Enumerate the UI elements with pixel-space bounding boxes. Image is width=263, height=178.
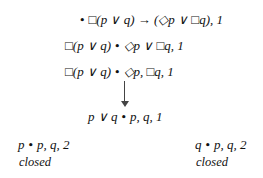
node-left: p [18, 137, 25, 152]
arrowhead-icon [121, 101, 129, 107]
closed-label-right: closed [196, 155, 228, 170]
sequent-bullet: • [114, 66, 121, 79]
node-left: q [195, 137, 202, 152]
node-right: □(p ∨ q) → (◇p ∨ □q), 1 [89, 12, 224, 27]
tableau-node-2: □(p ∨ q)•◇p ∨ □q, 1 [65, 39, 184, 54]
node-right: p, q, 2 [37, 137, 70, 152]
sequent-bullet: • [28, 139, 35, 152]
tableau-node-3: □(p ∨ q)•◇p, □q, 1 [65, 65, 174, 80]
node-right: p, q, 1 [130, 109, 163, 124]
node-right: ◇p ∨ □q, 1 [124, 38, 184, 53]
sequent-bullet: • [79, 14, 86, 27]
tableau-node-5: p•p, q, 2 [18, 138, 70, 153]
node-left: □(p ∨ q) [65, 64, 111, 79]
closed-label-left: closed [19, 155, 51, 170]
node-right: ◇p, □q, 1 [124, 64, 174, 79]
sequent-bullet: • [205, 139, 212, 152]
node-right: p, q, 2 [214, 137, 247, 152]
transition-arrow [124, 81, 125, 103]
tableau-node-4: p ∨ q•p, q, 1 [88, 110, 163, 125]
node-left: p ∨ q [88, 109, 118, 124]
tableau-node-1: •□(p ∨ q) → (◇p ∨ □q), 1 [76, 13, 223, 28]
tableau-node-6: q•p, q, 2 [195, 138, 247, 153]
sequent-bullet: • [121, 111, 128, 124]
sequent-bullet: • [114, 40, 121, 53]
node-left: □(p ∨ q) [65, 38, 111, 53]
